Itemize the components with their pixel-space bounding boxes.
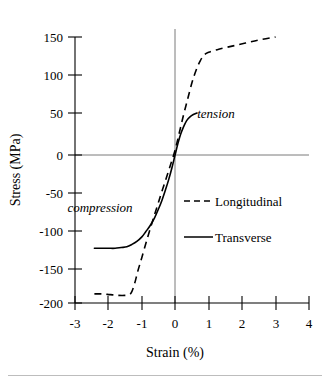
x-tick-label: 2	[239, 316, 246, 331]
chart-legend: Longitudinal Transverse	[184, 194, 283, 245]
y-tick-label: 150	[44, 30, 64, 45]
series-transverse-curve	[94, 113, 197, 248]
annotation-tension: tension	[197, 106, 235, 121]
x-tick-label: -2	[103, 316, 114, 331]
stress-strain-figure: 150 100 50 0 -50 -100 -150 -200 -3 -2 -1…	[0, 0, 330, 382]
y-tick-label: -100	[39, 224, 63, 239]
chart-canvas: 150 100 50 0 -50 -100 -150 -200 -3 -2 -1…	[0, 0, 330, 382]
x-tick-label: -1	[137, 316, 148, 331]
y-tick-label: -150	[39, 262, 63, 277]
y-tick-label: -50	[46, 186, 63, 201]
legend-label-longitudinal: Longitudinal	[215, 194, 283, 209]
x-tick-label: 4	[306, 316, 313, 331]
y-tick-labels: 150 100 50 0 -50 -100 -150 -200	[39, 30, 63, 311]
footer-divider	[8, 375, 322, 376]
y-tick-label: 50	[50, 106, 63, 121]
y-tick-label: 100	[44, 68, 64, 83]
x-tick-label: 1	[206, 316, 213, 331]
x-tick-label: -3	[70, 316, 81, 331]
y-tick-label: 0	[57, 148, 64, 163]
x-axis-title: Strain (%)	[146, 345, 204, 361]
series-longitudinal-curve	[94, 37, 275, 295]
annotation-compression: compression	[67, 200, 132, 215]
x-tick-label: 0	[172, 316, 179, 331]
x-tick-label: 3	[273, 316, 280, 331]
y-tick-label: -200	[39, 296, 63, 311]
legend-label-transverse: Transverse	[215, 230, 272, 245]
y-axis-title: Stress (MPa)	[8, 133, 24, 206]
x-tick-labels: -3 -2 -1 0 1 2 3 4	[70, 316, 313, 331]
